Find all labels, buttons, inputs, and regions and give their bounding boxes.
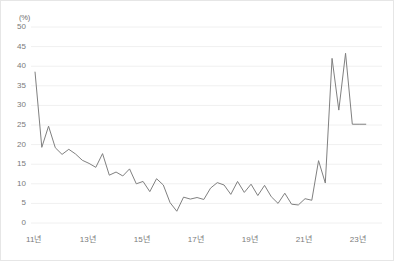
x-tick-label: 19년	[230, 233, 270, 244]
y-tick-label: 20	[4, 140, 26, 149]
y-tick-label: 30	[4, 100, 26, 109]
y-tick-label: 50	[4, 22, 26, 31]
line-chart-plot	[1, 1, 394, 261]
chart-figure: (%) 05101520253035404550 11년13년15년17년19년…	[0, 0, 394, 261]
y-tick-label: 15	[4, 159, 26, 168]
y-tick-label: 45	[4, 42, 26, 51]
y-tick-label: 5	[4, 198, 26, 207]
x-tick-label: 21년	[284, 233, 324, 244]
gridlines-group	[31, 27, 382, 223]
y-tick-label: 10	[4, 179, 26, 188]
y-tick-label: 0	[4, 218, 26, 227]
x-tick-label: 23년	[338, 233, 378, 244]
x-tick-label: 15년	[122, 233, 162, 244]
y-tick-label: 35	[4, 81, 26, 90]
data-series-line	[35, 53, 366, 211]
y-tick-label: 25	[4, 120, 26, 129]
x-tick-label: 13년	[68, 233, 108, 244]
x-tick-label: 17년	[176, 233, 216, 244]
x-tick-label: 11년	[14, 233, 54, 244]
y-tick-label: 40	[4, 61, 26, 70]
